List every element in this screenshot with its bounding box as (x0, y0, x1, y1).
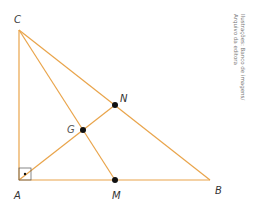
label-g: G (67, 124, 75, 135)
credit-line-1: Ilustrações: Banco de imagens/ (240, 14, 246, 100)
label-c: C (14, 14, 21, 25)
median-an (19, 105, 115, 180)
image-credit: Ilustrações: Banco de imagens/ Arquivo d… (228, 14, 258, 104)
label-a: A (14, 190, 21, 201)
triangle-diagram (0, 0, 263, 208)
right-angle-dot (24, 173, 26, 175)
label-m: M (112, 190, 121, 201)
point-g (80, 127, 86, 133)
median-cm (19, 30, 115, 180)
label-b: B (215, 185, 222, 196)
label-n: N (120, 93, 127, 104)
credit-line-2: Arquivo da editora (233, 14, 239, 65)
point-m (112, 177, 118, 183)
point-n (112, 102, 118, 108)
